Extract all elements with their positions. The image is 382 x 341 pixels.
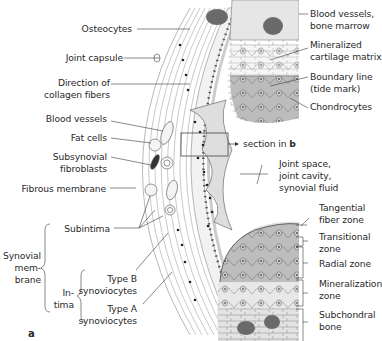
label-mineralization-1: Mineralization bbox=[319, 278, 382, 289]
label-synovial-1: Synovial bbox=[3, 250, 41, 261]
label-fibrous-membrane: Fibrous membrane bbox=[22, 183, 106, 194]
label-joint-space-1: Joint space, bbox=[279, 158, 331, 169]
label-blood-vessels-bone-marrow-2: bone marrow bbox=[310, 20, 370, 31]
label-transitional-2: zone bbox=[319, 243, 341, 254]
label-subchondral-2: bone bbox=[319, 321, 342, 332]
label-synovial-3: brane bbox=[15, 274, 41, 285]
label-section-b: section in b bbox=[243, 138, 296, 149]
label-fat-cells: Fat cells bbox=[71, 132, 107, 143]
label-direction-collagen-1: Direction of bbox=[58, 77, 110, 88]
label-boundary-1: Boundary line bbox=[310, 71, 372, 82]
label-boundary-2: (tide mark) bbox=[310, 83, 360, 94]
label-type-a-1: Type A bbox=[107, 303, 137, 314]
label-blood-vessels-bone-marrow-1: Blood vessels, bbox=[310, 8, 374, 19]
label-intima-2: tima bbox=[54, 299, 74, 310]
panel-letter: a bbox=[28, 328, 35, 339]
label-synovial-2: mem- bbox=[15, 262, 41, 273]
label-subsynovial-1: Subsynovial bbox=[53, 151, 107, 162]
label-type-a-2: synoviocytes bbox=[78, 315, 137, 326]
label-joint-space-3: synovial fluid bbox=[279, 182, 338, 193]
label-type-b-2: synoviocytes bbox=[78, 285, 137, 296]
label-joint-capsule: Joint capsule bbox=[66, 52, 123, 63]
label-chondrocytes: Chondrocytes bbox=[310, 101, 372, 112]
label-type-b-1: Type B bbox=[107, 273, 137, 284]
label-intima-1: In- bbox=[62, 287, 74, 298]
label-mineralization-2: zone bbox=[319, 290, 341, 301]
label-subsynovial-2: fibroblasts bbox=[60, 163, 107, 174]
label-radial-zone: Radial zone bbox=[319, 258, 371, 269]
label-joint-space-2: joint cavity, bbox=[279, 170, 331, 181]
label-transitional-1: Transitional bbox=[319, 231, 370, 242]
label-osteocytes: Osteocytes bbox=[82, 23, 132, 34]
label-tangential-1: Tangential bbox=[319, 202, 365, 213]
label-mineralized-1: Mineralized bbox=[310, 39, 362, 50]
label-tangential-2: fiber zone bbox=[319, 214, 364, 225]
label-subchondral-1: Subchondral bbox=[319, 309, 376, 320]
label-direction-collagen-2: collagen fibers bbox=[44, 89, 110, 100]
lower-bone-cartilage bbox=[217, 222, 299, 341]
leader-lines-left bbox=[110, 29, 190, 304]
label-mineralized-2: cartilage matrix bbox=[310, 51, 382, 62]
label-subintima: Subintima bbox=[64, 223, 110, 234]
label-blood-vessels-left: Blood vessels bbox=[46, 113, 107, 124]
